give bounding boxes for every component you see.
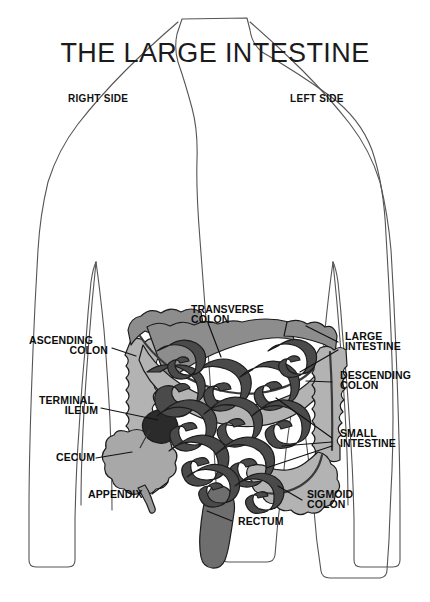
sigmoid-colon-label-line2: COLON bbox=[307, 498, 345, 510]
anatomy-figure: THE LARGE INTESTINE RIGHT SIDE LEFT SIDE… bbox=[0, 0, 430, 602]
terminal-ileum-label-line2: ILEUM bbox=[65, 404, 98, 416]
descending-colon-label-line2: COLON bbox=[340, 379, 378, 391]
transverse-colon-label-line2: COLON bbox=[191, 313, 229, 325]
left-side-label: LEFT SIDE bbox=[290, 93, 344, 104]
page-title: THE LARGE INTESTINE bbox=[60, 38, 369, 68]
ascending-colon-label-line2: COLON bbox=[70, 344, 108, 356]
large-intestine-label-line2: INTESTINE bbox=[345, 340, 401, 352]
rectum-label: RECTUM bbox=[238, 515, 284, 527]
large-intestine-diagram-page: THE LARGE INTESTINE RIGHT SIDE LEFT SIDE… bbox=[0, 0, 430, 602]
appendix-label: APPENDIX bbox=[88, 488, 142, 500]
cecum-label: CECUM bbox=[56, 451, 95, 463]
right-side-label: RIGHT SIDE bbox=[68, 93, 128, 104]
small-intestine-label-line2: INTESTINE bbox=[340, 437, 396, 449]
right-flank-line bbox=[81, 262, 96, 505]
